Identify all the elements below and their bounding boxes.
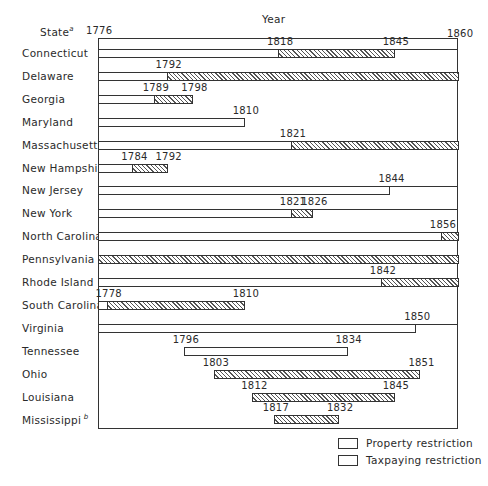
year-label: 1844 bbox=[378, 173, 404, 184]
taxpaying-restriction-bar bbox=[441, 232, 459, 241]
state-label: North Carolina bbox=[22, 230, 102, 242]
legend-label-property: Property restriction bbox=[366, 437, 473, 449]
taxpaying-restriction-bar bbox=[132, 164, 167, 173]
year-label: 1792 bbox=[156, 59, 182, 70]
year-label: 1810 bbox=[233, 105, 259, 116]
year-label: 1784 bbox=[121, 151, 147, 162]
year-label: 1818 bbox=[267, 36, 293, 47]
taxpaying-restriction-bar bbox=[154, 95, 194, 104]
property-restriction-bar bbox=[98, 324, 416, 333]
taxpaying-restriction-bar bbox=[291, 209, 313, 218]
footnote-a: a bbox=[69, 25, 74, 33]
year-label: 1803 bbox=[203, 357, 229, 368]
state-label: Massachusetts bbox=[22, 139, 104, 151]
property-restriction-bar bbox=[98, 232, 442, 241]
year-label: 1798 bbox=[181, 82, 207, 93]
state-label: New York bbox=[22, 207, 72, 219]
year-label: 1842 bbox=[370, 265, 396, 276]
state-label: South Carolina bbox=[22, 299, 103, 311]
legend-swatch-taxpaying bbox=[338, 455, 358, 466]
year-label: 1834 bbox=[336, 334, 362, 345]
state-label: Connecticut bbox=[22, 47, 88, 59]
taxpaying-restriction-bar bbox=[381, 278, 459, 287]
year-label: 1851 bbox=[408, 357, 434, 368]
state-label: Virginia bbox=[22, 322, 64, 334]
year-label: 1832 bbox=[327, 402, 353, 413]
taxpaying-restriction-bar bbox=[278, 49, 395, 58]
state-label: Louisiana bbox=[22, 391, 74, 403]
state-label: New Hampshire bbox=[22, 162, 109, 174]
year-label: 1821 bbox=[280, 128, 306, 139]
year-label: 1826 bbox=[301, 196, 327, 207]
property-restriction-bar bbox=[98, 49, 279, 58]
legend-label-taxpaying: Taxpaying restriction bbox=[366, 454, 482, 466]
property-restriction-bar bbox=[98, 209, 292, 218]
state-label: Georgia bbox=[22, 93, 65, 105]
state-label: New Jersey bbox=[22, 184, 83, 196]
year-label: 1810 bbox=[233, 288, 259, 299]
property-restriction-bar bbox=[98, 95, 155, 104]
year-label: 1817 bbox=[263, 402, 289, 413]
x-tick-start: 1776 bbox=[86, 25, 112, 36]
property-restriction-bar bbox=[98, 118, 245, 127]
property-restriction-bar bbox=[98, 72, 168, 81]
taxpaying-restriction-bar bbox=[291, 141, 459, 150]
year-label: 1812 bbox=[241, 380, 267, 391]
property-restriction-bar bbox=[98, 278, 382, 287]
state-label: Ohio bbox=[22, 368, 47, 380]
state-label: Pennsylvania bbox=[22, 253, 95, 265]
state-label: Rhode Island bbox=[22, 276, 94, 288]
taxpaying-restriction-bar bbox=[274, 415, 339, 424]
legend-swatch-property bbox=[338, 438, 358, 449]
state-label: State bbox=[40, 26, 69, 38]
year-label: 1856 bbox=[430, 219, 456, 230]
property-restriction-bar bbox=[98, 141, 292, 150]
footnote-b: b bbox=[81, 413, 88, 421]
y-axis-title: Statea bbox=[40, 25, 74, 38]
state-label: Tennessee bbox=[22, 345, 79, 357]
year-label: 1845 bbox=[383, 36, 409, 47]
year-label: 1789 bbox=[143, 82, 169, 93]
year-label: 1796 bbox=[173, 334, 199, 345]
taxpaying-restriction-bar bbox=[214, 370, 421, 379]
taxpaying-restriction-bar bbox=[98, 255, 459, 264]
property-restriction-bar bbox=[184, 347, 348, 356]
property-restriction-bar bbox=[98, 186, 390, 195]
x-axis-title: Year bbox=[262, 13, 285, 25]
state-label: Maryland bbox=[22, 116, 73, 128]
year-label: 1845 bbox=[383, 380, 409, 391]
year-label: 1792 bbox=[156, 151, 182, 162]
taxpaying-restriction-bar bbox=[107, 301, 245, 310]
state-label: Delaware bbox=[22, 70, 74, 82]
taxpaying-restriction-bar bbox=[252, 393, 394, 402]
taxpaying-restriction-bar bbox=[167, 72, 459, 81]
state-label: Mississippi b bbox=[22, 413, 89, 426]
year-label: 1778 bbox=[96, 288, 122, 299]
property-restriction-bar bbox=[98, 164, 133, 173]
year-label: 1850 bbox=[404, 311, 430, 322]
